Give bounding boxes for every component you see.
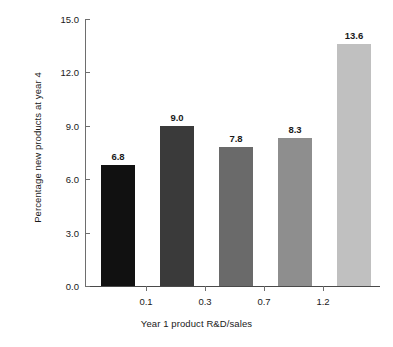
y-tick-label: 12.0	[48, 67, 79, 78]
y-tick-label: 15.0	[48, 14, 79, 25]
bar-4[interactable]	[337, 44, 371, 286]
bar-value-label-3: 8.3	[275, 124, 315, 135]
x-tick-label: 0.7	[244, 296, 284, 307]
x-tick-label: 0.1	[126, 296, 166, 307]
bar-value-label-1: 9.0	[157, 112, 197, 123]
bar-1[interactable]	[160, 126, 194, 286]
y-tick-mark	[85, 286, 90, 287]
x-tick-mark	[146, 286, 147, 291]
x-axis-line	[85, 286, 380, 287]
bar-value-label-4: 13.6	[334, 30, 374, 41]
y-axis-title: Percentage new products at year 4	[32, 33, 43, 263]
y-tick-label: 6.0	[48, 174, 79, 185]
bar-0[interactable]	[101, 165, 135, 286]
y-tick-mark	[85, 179, 90, 180]
x-tick-mark	[323, 286, 324, 291]
x-axis-title: Year 1 product R&D/sales	[0, 318, 393, 329]
bar-value-label-0: 6.8	[98, 151, 138, 162]
y-tick-mark	[85, 72, 90, 73]
bar-chart-figure: Percentage new products at year 4 Year 1…	[0, 0, 393, 347]
x-tick-mark	[264, 286, 265, 291]
x-tick-label: 1.2	[303, 296, 343, 307]
y-tick-label: 9.0	[48, 121, 79, 132]
y-tick-mark	[85, 126, 90, 127]
y-tick-mark	[85, 233, 90, 234]
bar-value-label-2: 7.8	[216, 133, 256, 144]
y-tick-mark	[85, 19, 90, 20]
y-axis-line	[85, 19, 86, 287]
bar-2[interactable]	[219, 147, 253, 286]
x-tick-label: 0.3	[185, 296, 225, 307]
y-tick-label: 3.0	[48, 228, 79, 239]
bar-3[interactable]	[278, 138, 312, 286]
y-tick-label: 0.0	[48, 281, 79, 292]
x-tick-mark	[205, 286, 206, 291]
